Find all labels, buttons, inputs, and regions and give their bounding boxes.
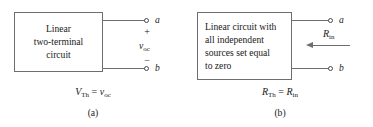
panel-b-box-line-2: all independent: [205, 33, 291, 46]
panel-b-eq-operator: =: [278, 86, 284, 97]
panel-b-eq-rhs-symbol: R: [286, 86, 292, 97]
panel-a-voltage-subscript: oc: [143, 45, 150, 53]
panel-b-box-line-3: sources set equal: [205, 46, 291, 59]
panel-a-top-lead: [103, 20, 146, 21]
panel-b-resistance-subscript: in: [329, 33, 334, 41]
panel-a: Linear two-terminal circuit a b + voc − …: [0, 0, 186, 127]
panel-b-box-line-1: Linear circuit with: [205, 20, 291, 33]
panel-a-eq-lhs-subscript: Th: [81, 91, 89, 99]
panel-b-resistance-arrow-line: [312, 45, 350, 46]
panel-a-terminal-b-node: [144, 66, 149, 71]
panel-a-box-line-1: Linear: [15, 22, 102, 35]
panel-a-circuit-box: Linear two-terminal circuit: [14, 12, 103, 72]
panel-a-bottom-lead: [103, 68, 146, 69]
panel-a-terminal-b-label: b: [155, 62, 160, 73]
panel-b-input-resistance-label: Rin: [323, 28, 335, 39]
panel-b-terminal-a-node: [328, 18, 333, 23]
panel-b-equation: RTh = Rin: [187, 86, 373, 97]
panel-b-terminal-a-label: a: [339, 14, 344, 25]
panel-a-polarity-plus: +: [141, 27, 153, 37]
panel-a-polarity-minus: −: [141, 56, 153, 66]
panel-b-caption: (b): [187, 107, 373, 118]
panel-b-box-line-4: to zero: [205, 59, 291, 72]
panel-b-top-lead: [292, 20, 330, 21]
panel-b: Linear circuit with all independent sour…: [187, 0, 373, 127]
panel-a-caption: (a): [0, 107, 186, 118]
panel-a-open-circuit-voltage-label: voc: [139, 40, 150, 51]
panel-b-terminal-b-label: b: [339, 62, 344, 73]
panel-b-eq-lhs-subscript: Th: [268, 91, 276, 99]
panel-b-resistance-arrow-head: [306, 42, 313, 48]
panel-a-box-line-2: two-terminal: [15, 35, 102, 48]
panel-b-circuit-box: Linear circuit with all independent sour…: [197, 12, 292, 80]
panel-a-terminal-a-node: [144, 18, 149, 23]
panel-a-equation: VTh = voc: [0, 86, 186, 97]
panel-b-bottom-lead: [292, 68, 330, 69]
panel-a-box-line-3: circuit: [15, 48, 102, 61]
panel-a-eq-operator: =: [92, 86, 98, 97]
panel-b-terminal-b-node: [328, 66, 333, 71]
panel-b-eq-rhs-subscript: in: [293, 91, 298, 99]
panel-a-terminal-a-label: a: [155, 14, 160, 25]
panel-a-eq-rhs-subscript: oc: [104, 91, 111, 99]
thevenin-equivalent-figure: Linear two-terminal circuit a b + voc − …: [0, 0, 373, 127]
